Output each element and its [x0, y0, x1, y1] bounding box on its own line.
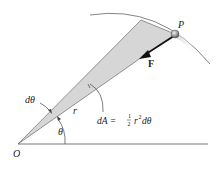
area-formula: dA = 1 2 r 2 dθ	[97, 113, 152, 127]
dtheta-arc	[40, 103, 50, 111]
label-theta: θ	[58, 126, 63, 137]
formula-r: r	[134, 116, 138, 126]
label-O: O	[13, 148, 20, 159]
label-F: F	[148, 58, 154, 69]
formula-frac-den: 2	[128, 121, 131, 127]
label-r: r	[73, 105, 77, 116]
motion-trail	[176, 34, 196, 54]
particle-P	[171, 30, 179, 38]
label-P: P	[177, 19, 184, 30]
theta-arrowhead	[57, 116, 61, 121]
label-dtheta: dθ	[25, 94, 35, 105]
formula-lhs: dA =	[97, 116, 116, 126]
formula-dtheta: dθ	[142, 116, 152, 126]
diagram-canvas: P F dθ r θ O dA = 1 2 r 2 dθ	[0, 0, 222, 171]
formula-frac-num: 1	[128, 113, 131, 119]
